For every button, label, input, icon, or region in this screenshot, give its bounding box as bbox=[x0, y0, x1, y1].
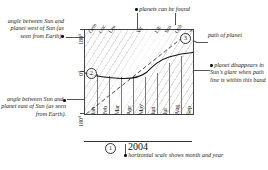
annotation-glare: planet disappears in Sun's glare when pa… bbox=[210, 62, 266, 84]
x-axis-label-feb: Feb bbox=[102, 106, 108, 115]
x-axis-label-jun: Jun bbox=[150, 107, 156, 115]
annotation-glare-text: planet disappears in Sun's glare when pa… bbox=[210, 62, 266, 83]
bullet-dot-icon bbox=[135, 8, 138, 11]
bullet-dot-icon bbox=[210, 64, 213, 67]
leader-path bbox=[196, 42, 208, 43]
annotation-planets-found: planets can be found bbox=[135, 6, 267, 13]
annotation-east-text: angle between Sun and planet east of Sun… bbox=[1, 96, 66, 117]
x-axis-label-mar: Mar bbox=[114, 105, 120, 115]
x-axis-label-apr: Apr bbox=[126, 106, 132, 115]
bullet-dot-icon bbox=[63, 99, 66, 102]
y-axis-tick-bottom bbox=[80, 113, 84, 114]
x-axis-label-aug: Aug bbox=[174, 105, 180, 115]
y-axis-tick-top bbox=[80, 29, 84, 30]
series-planet-path bbox=[85, 53, 193, 79]
annotation-path: path of planet bbox=[208, 32, 266, 39]
figure-root: angle between Sun and planet west of Sun… bbox=[0, 0, 268, 170]
leader-hscale bbox=[125, 144, 126, 154]
y-axis-label-top: 180° bbox=[78, 34, 84, 45]
x-axis-label-sep: Sep bbox=[186, 106, 192, 115]
callout-number-3: 3 bbox=[180, 33, 191, 44]
chart-series-overlay bbox=[85, 30, 193, 114]
annotation-west-text: angle between Sun and planet west of Sun… bbox=[8, 18, 64, 39]
annotation-path-text: path of planet bbox=[208, 32, 242, 38]
callout-number-1: 1 bbox=[105, 143, 116, 154]
bullet-dot-icon bbox=[61, 35, 64, 38]
y-axis-label-bottom: 180° bbox=[78, 116, 84, 127]
bullet-dot-icon bbox=[124, 154, 127, 157]
annotation-planets-found-text: planets can be found bbox=[139, 6, 190, 12]
x-axis-label-jan: Jan bbox=[90, 107, 96, 115]
callout-number-2: 2 bbox=[86, 68, 97, 79]
annotation-constellation: constellation in which bbox=[118, 0, 264, 2]
y-axis-tick-mid bbox=[80, 71, 84, 72]
x-axis-year-label: 2004 bbox=[84, 141, 192, 152]
annotation-constellation-text: constellation in which bbox=[118, 0, 172, 1]
x-axis-label-may: May bbox=[138, 104, 144, 115]
annotation-east: angle between Sun and planet east of Sun… bbox=[0, 96, 66, 118]
series-glare-centre-line bbox=[85, 30, 193, 114]
chart-plot-area: 2 3 bbox=[84, 29, 194, 115]
leader-east bbox=[67, 99, 84, 100]
annotation-west: angle between Sun and planet west of Sun… bbox=[2, 18, 64, 40]
annotation-hscale-text: horizontal scale shows month and year bbox=[128, 152, 223, 158]
x-axis-label-jul: Jul bbox=[162, 108, 168, 115]
leader-constellation-2 bbox=[175, 13, 176, 25]
annotation-hscale: horizontal scale shows month and year bbox=[124, 152, 264, 159]
